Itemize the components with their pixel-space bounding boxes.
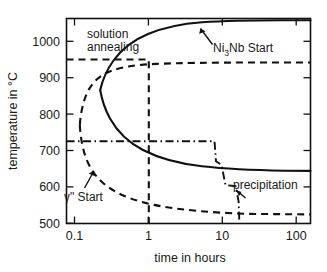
x-axis-title: time in hours (154, 251, 226, 265)
ni3nb-prefix: Ni (213, 41, 224, 55)
x-tick-label-100: 100 (286, 229, 307, 243)
curve-gamma-double-prime-start-upper (80, 63, 311, 125)
y-tick-label-600: 600 (39, 180, 60, 194)
annotation-precipitation-text: precipitation (233, 178, 298, 192)
annotation-solution-annealing-line2: annealing (87, 40, 139, 54)
y-tick-label-1000: 1000 (32, 35, 60, 49)
ni3nb-suffix: Nb Start (229, 41, 274, 55)
y-tick-label-900: 900 (39, 71, 60, 85)
x-tick-label-10: 10 (215, 229, 229, 243)
annotation-solution-annealing-line1: solution (87, 27, 128, 41)
x-tick-label-1: 1 (145, 229, 152, 243)
y-tick-label-700: 700 (39, 144, 60, 158)
ttt-diagram-figure: 1000 900 800 700 600 500 0.1 1 10 100 ti… (0, 0, 327, 272)
curve-ni3nb-start-upper (100, 20, 310, 90)
y-tick-label-800: 800 (39, 108, 60, 122)
x-axis-ticks-bottom (75, 217, 297, 224)
annotation-ni3nb-start-text: Ni3Nb Start (213, 41, 274, 58)
annotation-ni3nb-start: Ni3Nb Start (199, 29, 274, 58)
y-tick-label-500: 500 (39, 217, 60, 231)
x-tick-label-0.1: 0.1 (66, 229, 83, 243)
ttt-diagram-svg: 1000 900 800 700 600 500 0.1 1 10 100 ti… (0, 0, 327, 272)
curve-ni3nb-start-lower (100, 90, 310, 171)
y-axis-title: temperature in °C (6, 72, 20, 170)
annotation-gamma-start-text: γ" Start (64, 190, 104, 204)
annotation-precipitation: precipitation (233, 178, 298, 198)
